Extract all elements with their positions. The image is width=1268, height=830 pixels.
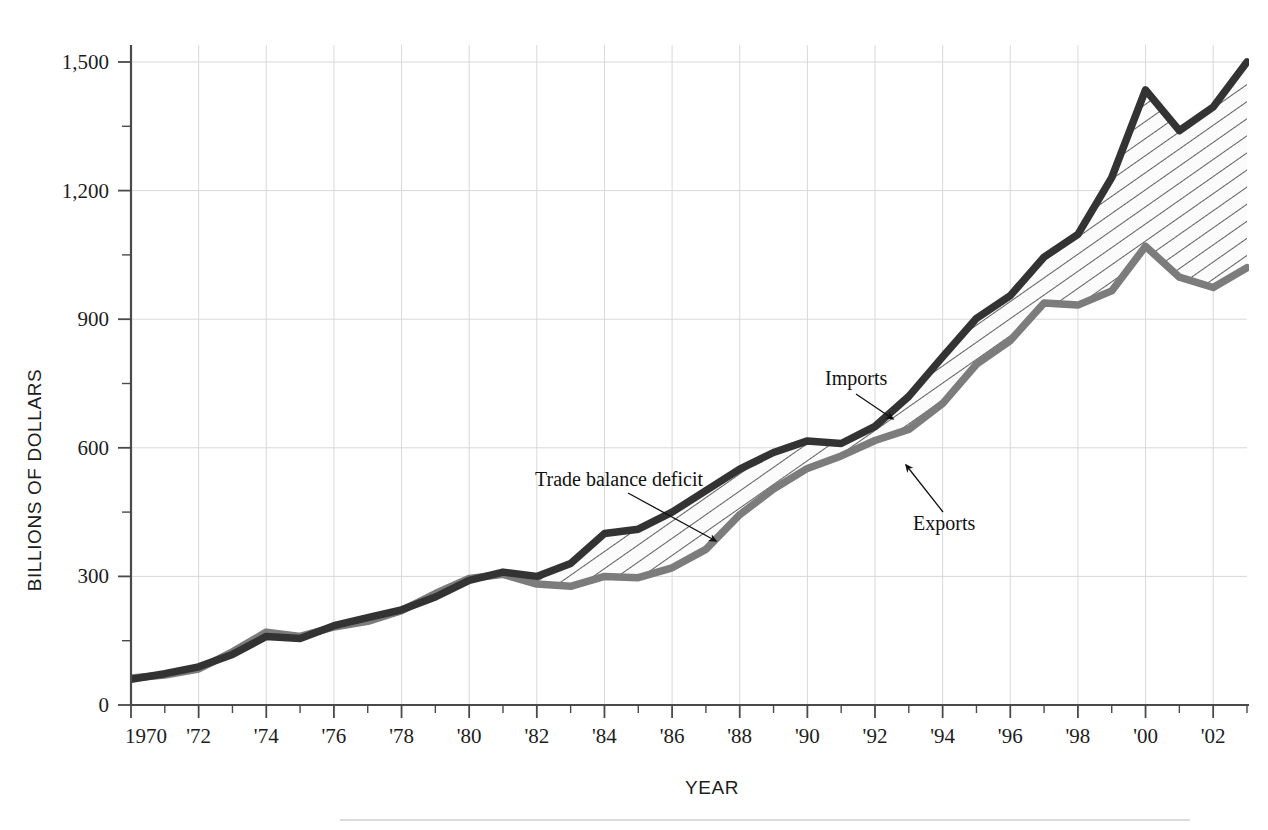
y-tick-label: 600 bbox=[78, 436, 110, 460]
x-tick-label: '80 bbox=[457, 724, 482, 748]
y-tick-label: 1,200 bbox=[62, 179, 109, 203]
y-tick-label: 1,500 bbox=[62, 50, 109, 74]
x-tick-label: '92 bbox=[863, 724, 888, 748]
chart-figure: 03006009001,2001,500 1970'72'74'76'78'80… bbox=[0, 0, 1268, 830]
trade-deficit-label: Trade balance deficit bbox=[535, 468, 704, 490]
x-tick-label: '86 bbox=[660, 724, 685, 748]
x-tick-label: '94 bbox=[930, 724, 955, 748]
y-tick-label: 300 bbox=[78, 564, 110, 588]
imports-label: Imports bbox=[825, 367, 887, 390]
x-tick-label: '78 bbox=[389, 724, 414, 748]
x-tick-label: '74 bbox=[254, 724, 279, 748]
x-tick-label: '88 bbox=[727, 724, 752, 748]
y-tick-label: 0 bbox=[99, 693, 110, 717]
x-tick-label: 1970 bbox=[125, 724, 167, 748]
trade-balance-chart: 03006009001,2001,500 1970'72'74'76'78'80… bbox=[0, 0, 1268, 830]
x-tick-label: '82 bbox=[524, 724, 549, 748]
x-axis-title: YEAR bbox=[685, 777, 739, 798]
x-tick-label: '84 bbox=[592, 724, 617, 748]
x-tick-label: '02 bbox=[1201, 724, 1226, 748]
y-tick-label: 900 bbox=[78, 307, 110, 331]
x-tick-label: '96 bbox=[998, 724, 1023, 748]
x-tick-label: '76 bbox=[322, 724, 347, 748]
x-tick-label: '90 bbox=[795, 724, 820, 748]
y-axis-title: BILLIONS OF DOLLARS bbox=[24, 369, 45, 592]
x-tick-label: '98 bbox=[1066, 724, 1091, 748]
x-tick-label: '72 bbox=[186, 724, 211, 748]
x-tick-label: '00 bbox=[1133, 724, 1158, 748]
exports-label: Exports bbox=[913, 512, 975, 535]
